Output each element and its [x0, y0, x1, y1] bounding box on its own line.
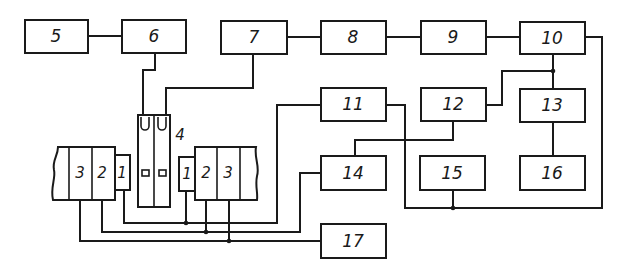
block-7: 7	[221, 21, 287, 54]
device-label: 4	[175, 126, 185, 144]
junction-dot	[451, 206, 456, 211]
block-11: 11	[321, 88, 386, 121]
right-assembly: 1 2 3	[179, 147, 258, 200]
block-15: 15	[420, 156, 485, 190]
block-label: 10	[541, 28, 563, 48]
block-label: 14	[342, 163, 364, 183]
block-label: 15	[441, 163, 463, 183]
cell-label: 1	[117, 164, 127, 182]
junction-dot	[227, 239, 232, 244]
block-17: 17	[321, 224, 386, 258]
block-label: 11	[342, 94, 364, 114]
block-12: 12	[421, 88, 486, 121]
junction-dot	[551, 69, 556, 74]
junction-dot	[184, 221, 189, 226]
block-8: 8	[321, 21, 386, 54]
block-label: 5	[51, 26, 62, 46]
block-9: 9	[421, 21, 486, 54]
block-diagram: 5 6 7 8 9 10 11 12 13 14 15	[0, 0, 627, 274]
device-4: 4	[138, 115, 185, 207]
block-label: 16	[541, 163, 563, 183]
block-16: 16	[520, 156, 585, 190]
left-assembly: 3 2 1	[52, 147, 130, 200]
block-label: 6	[149, 26, 160, 46]
wire-17-cells-3	[80, 200, 321, 241]
cell-label: 2	[97, 164, 107, 182]
block-label: 7	[249, 27, 260, 47]
block-14: 14	[321, 156, 386, 190]
cell-label: 3	[223, 164, 233, 182]
block-label: 17	[342, 231, 364, 251]
wire-6-4	[143, 53, 155, 117]
block-5: 5	[25, 20, 88, 53]
block-label: 8	[348, 27, 359, 47]
cell-label: 3	[75, 164, 85, 182]
wire-7-4	[166, 54, 253, 117]
junction-dot	[204, 230, 209, 235]
block-13: 13	[520, 89, 585, 122]
block-10: 10	[520, 22, 585, 54]
block-6: 6	[122, 20, 186, 53]
block-label: 13	[541, 95, 563, 115]
cell-label: 1	[182, 165, 192, 183]
cell-label: 2	[201, 164, 211, 182]
block-label: 9	[448, 27, 459, 47]
block-label: 12	[442, 94, 464, 114]
